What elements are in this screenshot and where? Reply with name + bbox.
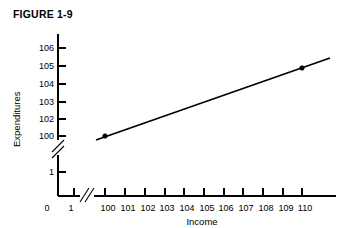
y-tick-label-100: 100 <box>39 131 54 141</box>
x-tick-label-103: 103 <box>159 203 174 213</box>
data-point-marker-1 <box>103 134 108 139</box>
y-tick-label-104: 104 <box>39 79 54 89</box>
y-tick-label-106: 106 <box>39 43 54 53</box>
y-tick-label-105: 105 <box>39 61 54 71</box>
chart-canvas: 106 105 104 103 102 100 1 Expenditures <box>0 0 341 228</box>
x-tick-label-108: 108 <box>258 203 273 213</box>
x-tick-label-1: 1 <box>68 203 73 213</box>
y-tick-label-102: 102 <box>39 114 54 124</box>
x-tick-label-101: 101 <box>120 203 135 213</box>
x-axis-break-icon <box>80 188 94 202</box>
x-tick-label-104: 104 <box>179 203 194 213</box>
data-point-marker-2 <box>300 66 305 71</box>
x-tick-label-0: 0 <box>44 203 49 213</box>
x-axis-title: Income <box>186 216 217 227</box>
x-tick-label-107: 107 <box>238 203 253 213</box>
y-tick-label-1: 1 <box>49 167 54 177</box>
y-axis-title: Expenditures <box>11 91 22 147</box>
x-tick-label-105: 105 <box>199 203 214 213</box>
series-line-consumption-function <box>96 58 330 140</box>
x-tick-label-102: 102 <box>140 203 155 213</box>
x-tick-label-106: 106 <box>218 203 233 213</box>
x-tick-label-110: 110 <box>298 203 312 213</box>
figure-container: FIGURE 1-9 106 105 104 103 102 100 1 Exp… <box>0 0 341 228</box>
y-tick-label-103: 103 <box>39 97 54 107</box>
x-tick-label-100: 100 <box>100 203 115 213</box>
x-tick-label-109: 109 <box>278 203 293 213</box>
